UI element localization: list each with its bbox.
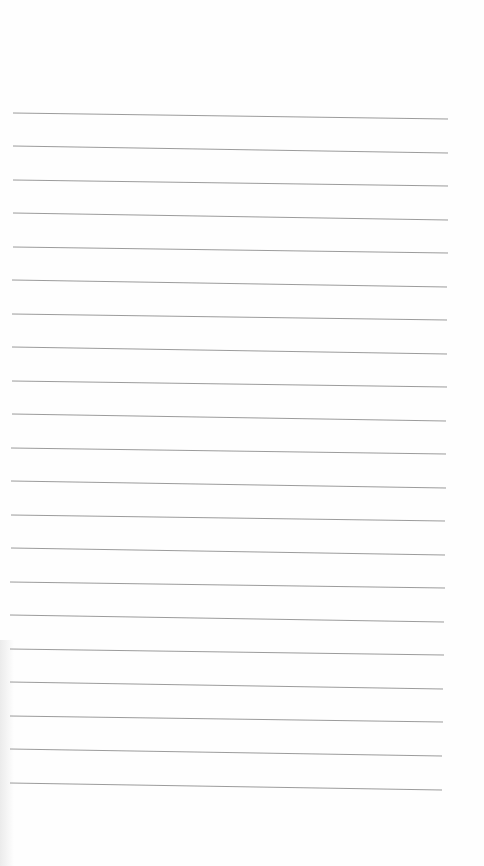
ruled-line-12 — [11, 481, 446, 488]
ruled-line-18 — [10, 682, 443, 689]
ruled-line-13 — [11, 515, 445, 521]
ruled-line-19 — [10, 716, 443, 722]
ruled-line-2 — [13, 146, 448, 153]
ruled-line-21 — [10, 783, 442, 790]
ruled-line-7 — [12, 314, 447, 320]
ruled-lines — [0, 0, 484, 866]
ruled-line-14 — [11, 548, 445, 555]
ruled-line-1 — [13, 113, 448, 119]
ruled-line-6 — [12, 280, 447, 287]
ruled-line-4 — [13, 213, 448, 220]
ruled-line-10 — [12, 414, 446, 421]
ruled-line-20 — [10, 749, 442, 756]
ruled-line-11 — [11, 448, 446, 454]
ruled-line-15 — [10, 582, 445, 588]
lined-paper-page — [0, 0, 484, 866]
ruled-line-9 — [12, 381, 447, 387]
ruled-line-16 — [10, 615, 444, 622]
ruled-line-3 — [13, 180, 448, 186]
ruled-line-5 — [13, 247, 448, 253]
ruled-line-17 — [10, 649, 444, 655]
ruled-line-8 — [12, 347, 447, 354]
